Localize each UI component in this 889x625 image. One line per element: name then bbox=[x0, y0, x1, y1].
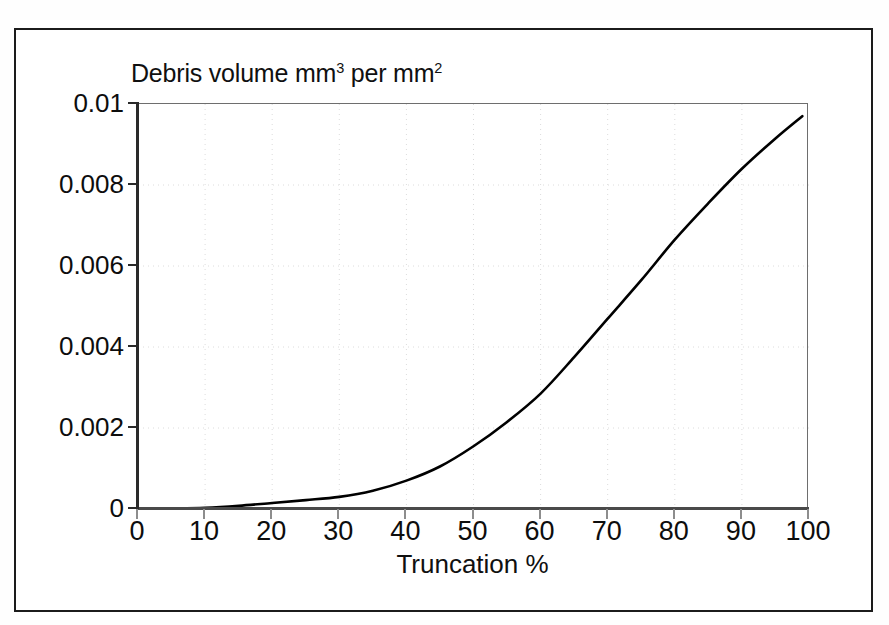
chart-title-superscript-3: 3 bbox=[336, 60, 344, 76]
chart-title-superscript-2: 2 bbox=[434, 60, 442, 76]
y-axis-tick-mark bbox=[128, 426, 139, 428]
plot-area bbox=[137, 103, 808, 508]
chart-title-lead: Debris volume mm bbox=[131, 59, 336, 87]
x-axis-title: Truncation % bbox=[137, 549, 808, 579]
y-axis-tick-mark bbox=[128, 345, 139, 347]
y-axis-tick-label: 0.002 bbox=[4, 414, 124, 440]
chart-title: Debris volume mm3 per mm2 bbox=[131, 58, 442, 88]
y-axis-line bbox=[136, 102, 139, 510]
horizontal-gridlines bbox=[138, 185, 809, 428]
y-axis-tick-label: 0.008 bbox=[4, 171, 124, 197]
y-axis-tick-label: 0.004 bbox=[4, 333, 124, 359]
scanned-figure-page: Debris volume mm3 per mm2 00.0020.0040.0… bbox=[0, 0, 889, 625]
vertical-gridlines bbox=[205, 104, 742, 509]
data-series-curve bbox=[138, 116, 802, 509]
y-axis-tick-label: 0.01 bbox=[4, 90, 124, 116]
chart-title-mid: per mm bbox=[344, 59, 434, 87]
x-axis-tick-label: 100 bbox=[763, 516, 853, 546]
y-axis-tick-mark bbox=[128, 264, 139, 266]
y-axis-tick-mark bbox=[128, 102, 139, 104]
y-axis-tick-mark bbox=[128, 183, 139, 185]
plot-svg bbox=[138, 104, 809, 509]
y-axis-tick-label: 0.006 bbox=[4, 252, 124, 278]
